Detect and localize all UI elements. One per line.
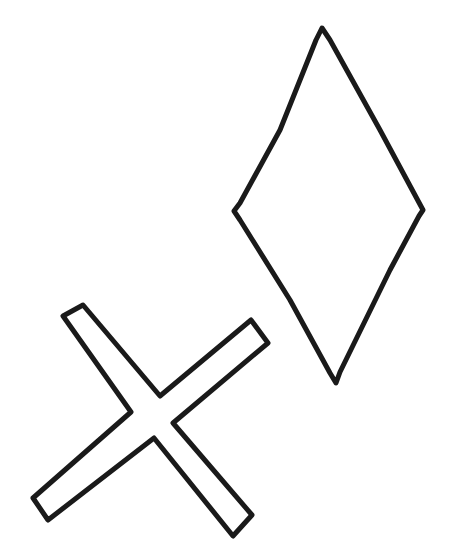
figure-svg xyxy=(0,0,455,557)
drawing-canvas xyxy=(0,0,455,557)
